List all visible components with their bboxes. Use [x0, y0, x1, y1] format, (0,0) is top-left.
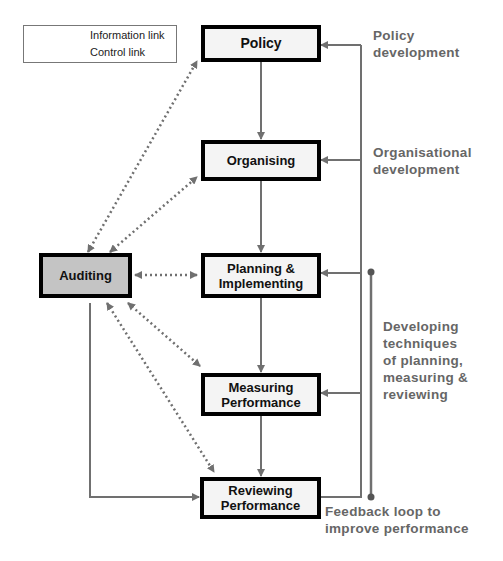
box-organising-label: Organising: [227, 153, 296, 168]
note-feedback-loop: Feedback loop to improve performance: [325, 503, 469, 537]
info-link-auditing-policy: [88, 61, 197, 252]
box-planning-label: Planning & Implementing: [219, 261, 304, 291]
note-policy-development: Policy development: [373, 27, 460, 61]
box-measuring-label: Measuring Performance: [221, 380, 300, 410]
box-organising: Organising: [201, 140, 321, 181]
box-auditing: Auditing: [39, 253, 132, 298]
box-policy: Policy: [201, 25, 321, 62]
legend-information-label: Information link: [90, 29, 165, 41]
info-link-auditing-measuring: [128, 303, 200, 366]
legend-item-information: Information link: [24, 29, 176, 45]
feedback-loop-line: [320, 45, 361, 497]
box-policy-label: Policy: [240, 36, 281, 51]
bracket-dot-top: [368, 269, 375, 276]
note-developing-techniques: Developing techniques of planning, measu…: [383, 318, 468, 403]
box-reviewing-label: Reviewing Performance: [221, 483, 300, 513]
legend-control-label: Control link: [90, 46, 145, 58]
box-auditing-label: Auditing: [59, 268, 112, 283]
box-planning-implementing: Planning & Implementing: [201, 253, 321, 298]
info-link-auditing-organising: [110, 177, 197, 252]
note-organisational-development: Organisational development: [373, 144, 472, 178]
info-link-auditing-reviewing: [107, 303, 214, 472]
legend-item-control: Control link: [24, 46, 176, 62]
control-link-auditing-reviewing: [90, 303, 199, 497]
box-reviewing-performance: Reviewing Performance: [200, 477, 321, 519]
legend: Information link Control link: [23, 25, 177, 63]
bracket-dot-bottom: [368, 494, 375, 501]
box-measuring-performance: Measuring Performance: [201, 373, 321, 416]
